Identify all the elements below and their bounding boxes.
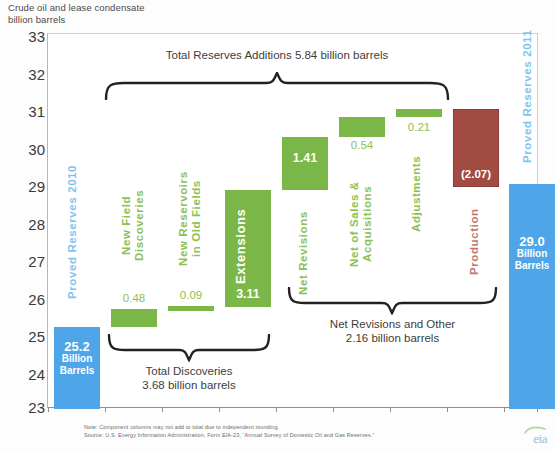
bar-value-number: 29.0 — [509, 236, 555, 248]
annotation-line2: 2.16 billion barrels — [286, 331, 499, 345]
brace-total-discoveries — [106, 334, 272, 362]
chart-figure: Crude oil and lease condensate billion b… — [0, 0, 555, 451]
bar-proved-reserves-2010[interactable]: 25.2 Billion Barrels — [54, 327, 100, 409]
bar-value-number: 25.2 — [54, 341, 100, 353]
bar-extensions[interactable]: 3.11 — [225, 190, 271, 307]
bar-value-extensions: 3.11 — [225, 287, 271, 301]
bar-net-sales-acquisitions[interactable] — [339, 117, 385, 137]
bar-label-net-sales-acquisitions: Net of Sales &Acquisitions — [348, 159, 374, 289]
y-axis-tick: 27 — [5, 253, 45, 270]
x-axis-tick — [447, 407, 448, 412]
bar-net-revisions[interactable]: 1.41 — [282, 137, 328, 190]
y-axis-tick: 32 — [5, 65, 45, 82]
annotation-net-revisions-other: Net Revisions and Other 2.16 billion bar… — [286, 317, 499, 345]
bar-value-new-field-discoveries: 0.48 — [111, 292, 157, 304]
brace-total-reserves-additions — [102, 72, 452, 100]
eia-logo: eia — [533, 431, 547, 447]
y-axis-tick: 23 — [5, 399, 45, 416]
bar-value-net-revisions: 1.41 — [282, 151, 328, 165]
bar-proved-reserves-2011[interactable]: 29.0 Billion Barrels — [509, 184, 555, 409]
bar-value-adjustments: 0.21 — [396, 121, 442, 133]
x-axis-tick — [162, 407, 163, 412]
x-axis-tick — [48, 407, 49, 412]
bar-value-proved-reserves-2011: 29.0 Billion Barrels — [509, 236, 555, 272]
y-axis-tick: 25 — [5, 328, 45, 345]
annotation-total-reserves-additions: Total Reserves Additions 5.84 billion ba… — [102, 48, 452, 62]
bar-value-unit-line2: Barrels — [54, 365, 100, 377]
bar-new-field-discoveries[interactable] — [111, 309, 157, 327]
x-axis-tick — [105, 407, 106, 412]
y-axis-tick: 30 — [5, 140, 45, 157]
bar-label-proved-reserves-2011: Proved Reserves 2011 — [521, 9, 534, 184]
bar-adjustments[interactable] — [396, 109, 442, 117]
annotation-line1: Total Discoveries — [106, 364, 272, 378]
y-axis-tick: 29 — [5, 178, 45, 195]
y-axis: 33 32 31 30 29 28 27 26 25 24 23 — [0, 33, 45, 409]
bar-value-net-sales-acquisitions: 0.54 — [339, 139, 385, 151]
x-axis-tick — [276, 407, 277, 412]
bar-label-proved-reserves-2010: Proved Reserves 2010 — [66, 144, 79, 319]
bar-label-new-reservoirs-old-fields: New Reservoirsin Old Fields — [177, 154, 203, 284]
y-axis-tick: 33 — [5, 28, 45, 45]
chart-title: Crude oil and lease condensate — [8, 2, 145, 14]
bar-label-adjustments: Adjustments — [410, 139, 423, 249]
plot-area: 25.2 Billion Barrels Proved Reserves 201… — [47, 33, 538, 408]
x-axis-tick — [219, 407, 220, 412]
annotation-line2: 3.68 billion barrels — [106, 378, 272, 392]
bar-label-extensions: Extensions — [234, 206, 247, 286]
bar-value-production: (2.07) — [454, 168, 498, 180]
bar-value-unit-line2: Barrels — [509, 260, 555, 272]
chart-title-block: Crude oil and lease condensate billion b… — [8, 2, 145, 26]
annotation-line1: Net Revisions and Other — [286, 317, 499, 331]
x-axis-tick — [504, 407, 505, 412]
bar-production[interactable]: (2.07) — [453, 109, 499, 187]
y-axis-tick: 28 — [5, 215, 45, 232]
bar-value-unit-line1: Billion — [54, 353, 100, 365]
brace-net-revisions-other — [286, 287, 499, 315]
footnote-source: Source: U.S. Energy Information Administ… — [84, 432, 374, 438]
bar-new-reservoirs-old-fields[interactable] — [168, 306, 214, 311]
annotation-total-discoveries: Total Discoveries 3.68 billion barrels — [106, 364, 272, 392]
bar-value-new-reservoirs-old-fields: 0.09 — [168, 289, 214, 301]
y-axis-tick: 31 — [5, 103, 45, 120]
bar-label-production: Production — [468, 194, 481, 289]
y-axis-tick: 26 — [5, 290, 45, 307]
bar-value-unit-line1: Billion — [509, 248, 555, 260]
x-axis-tick — [390, 407, 391, 412]
x-axis-tick — [333, 407, 334, 412]
bar-value-proved-reserves-2010: 25.2 Billion Barrels — [54, 341, 100, 377]
footnote-note: Note: Component columns may not add to t… — [84, 424, 279, 430]
y-axis-tick: 24 — [5, 365, 45, 382]
bar-label-new-field-discoveries: New FieldDiscoveries — [120, 164, 146, 286]
chart-subtitle: billion barrels — [8, 14, 145, 26]
